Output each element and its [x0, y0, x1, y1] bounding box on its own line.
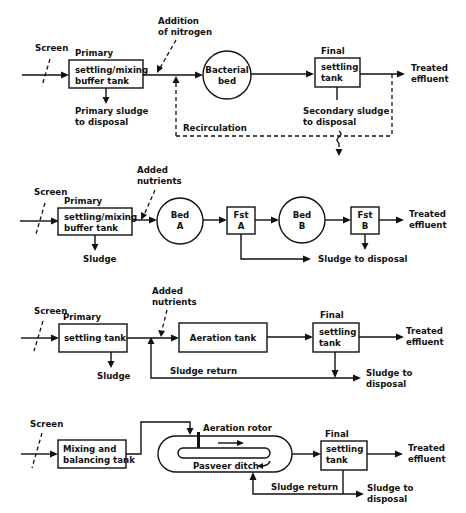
final-tank-line1: settling — [326, 444, 363, 454]
mixing-tank-line1: Mixing and — [63, 444, 116, 454]
primary-tank-line2: buffer tank — [64, 223, 118, 233]
bacterial-bed-circle — [203, 51, 251, 99]
fst-b-label-1: Fst — [357, 210, 372, 220]
mixing-tank-line2: balancing tank — [63, 455, 135, 465]
pasveer-ditch-inner — [178, 448, 270, 458]
nutrients-addition-line — [162, 310, 167, 330]
bed-a-label-1: Bed — [171, 210, 190, 220]
final-tank-line2: tank — [326, 455, 348, 465]
recirculation-label: Recirculation — [183, 123, 247, 133]
final-tank-line1: settling — [321, 62, 358, 72]
output-label-1: Treated — [406, 326, 443, 336]
bed-label-2: bed — [218, 76, 236, 86]
sludge-disposal-label: Sludge to disposal — [318, 254, 408, 264]
screen-symbol — [36, 203, 45, 234]
screen-symbol — [34, 321, 43, 351]
panel-activated-sludge: Screen Primary settling tank Sludge Adde… — [21, 286, 444, 389]
arrow-head-icon — [108, 361, 115, 368]
arrow-head-icon — [305, 334, 313, 341]
aeration-rotor-icon — [197, 432, 200, 448]
bed-b-circle — [279, 197, 325, 243]
arrow-head-icon — [141, 212, 147, 220]
aeration-rotor-label: Aeration rotor — [203, 423, 273, 433]
addition-label-2: nutrients — [152, 297, 197, 307]
arrow-head-icon — [250, 472, 257, 480]
output-label-1: Treated — [408, 443, 445, 453]
arrow-head-icon — [50, 451, 58, 458]
arrow-head-icon — [343, 217, 351, 224]
sludge-disposal-label-2: disposal — [366, 379, 406, 389]
arrow-head-icon — [103, 97, 110, 104]
fst-a-label-2: A — [238, 221, 245, 231]
panel-pasveer-ditch: Screen Mixing and balancing tank Aeratio… — [21, 419, 446, 504]
bed-b-label-2: B — [299, 221, 306, 231]
arrow-head-icon — [157, 65, 163, 73]
arrow-head-icon — [336, 149, 343, 156]
primary-tank-line1: settling/mixing — [75, 65, 148, 75]
final-tank-line2: tank — [319, 338, 341, 348]
sludge-label: Sludge — [83, 254, 117, 264]
screen-label: Screen — [30, 419, 63, 429]
screen-label: Screen — [34, 187, 67, 197]
arrow-head-icon — [195, 72, 203, 79]
output-label-1: Treated — [411, 63, 448, 73]
arrow-head-icon — [51, 335, 59, 342]
primary-label: Primary — [64, 196, 102, 206]
addition-label-1: Addition — [158, 16, 199, 26]
output-label-2: effluent — [411, 74, 449, 84]
screen-label: Screen — [35, 43, 68, 53]
secondary-sludge-label-2: to disposal — [303, 117, 356, 127]
arrow-head-icon — [396, 334, 404, 341]
sludge-disposal-label-1: Sludge to — [366, 368, 412, 378]
primary-tank-line1: settling/mixing — [64, 212, 137, 222]
output-label-2: effluent — [406, 337, 444, 347]
primary-label: Primary — [63, 312, 101, 322]
final-label: Final — [320, 310, 344, 320]
arrow-head-icon — [306, 71, 314, 78]
arrow-head-icon — [149, 217, 157, 224]
arrow-head-icon — [271, 217, 279, 224]
addition-label-2: nutrients — [137, 176, 182, 186]
addition-label-1: Added — [152, 286, 183, 296]
arrow-head-icon — [353, 375, 361, 382]
primary-label: Primary — [75, 48, 113, 58]
arrow-head-icon — [158, 330, 165, 337]
arrow-head-icon — [173, 76, 180, 83]
arrow-head-icon — [219, 217, 227, 224]
bed-a-label-2: A — [177, 221, 184, 231]
aeration-tank-label: Aeration tank — [190, 333, 257, 343]
primary-tank-label: settling tank — [64, 333, 126, 343]
arrow-head-icon — [362, 243, 369, 250]
pasveer-ditch-label: Pasveer ditch — [193, 461, 259, 471]
output-label-2: effluent — [408, 454, 446, 464]
primary-sludge-label-1: Primary sludge — [75, 106, 149, 116]
arrow-head-icon — [61, 72, 69, 79]
crossover-icon — [337, 131, 341, 143]
arrow-head-icon — [332, 370, 339, 378]
addition-label-1: Added — [137, 165, 168, 175]
output-label-1: Treated — [409, 209, 446, 219]
arrow-head-icon — [395, 451, 403, 458]
addition-label-2: of nitrogen — [158, 27, 212, 37]
arrow-head-icon — [356, 491, 364, 498]
bed-b-label-1: Bed — [293, 210, 312, 220]
sludge-label: Sludge — [97, 371, 131, 381]
fst-b-label-2: B — [362, 221, 369, 231]
primary-sludge-label-2: to disposal — [75, 117, 128, 127]
primary-tank-line2: buffer tank — [75, 76, 129, 86]
screen-symbol — [42, 59, 50, 86]
screen-symbol — [32, 433, 42, 468]
arrow-head-icon — [92, 244, 99, 251]
nutrients-addition-line — [144, 190, 155, 215]
final-tank-line2: tank — [321, 73, 343, 83]
arrow-head-icon — [313, 451, 321, 458]
sludge-return-label: Sludge return — [271, 482, 338, 492]
arrow-head-icon — [396, 217, 404, 224]
final-label: Final — [321, 46, 345, 56]
arrow-head-icon — [187, 428, 194, 435]
sludge-disposal-label-1: Sludge to — [367, 483, 413, 493]
sludge-return-label: Sludge return — [170, 366, 237, 376]
treatment-flow-diagram: Screen Primary settling/mixing buffer ta… — [0, 0, 466, 513]
bed-label-1: Bacterial — [205, 65, 248, 75]
arrow-head-icon — [303, 256, 311, 263]
